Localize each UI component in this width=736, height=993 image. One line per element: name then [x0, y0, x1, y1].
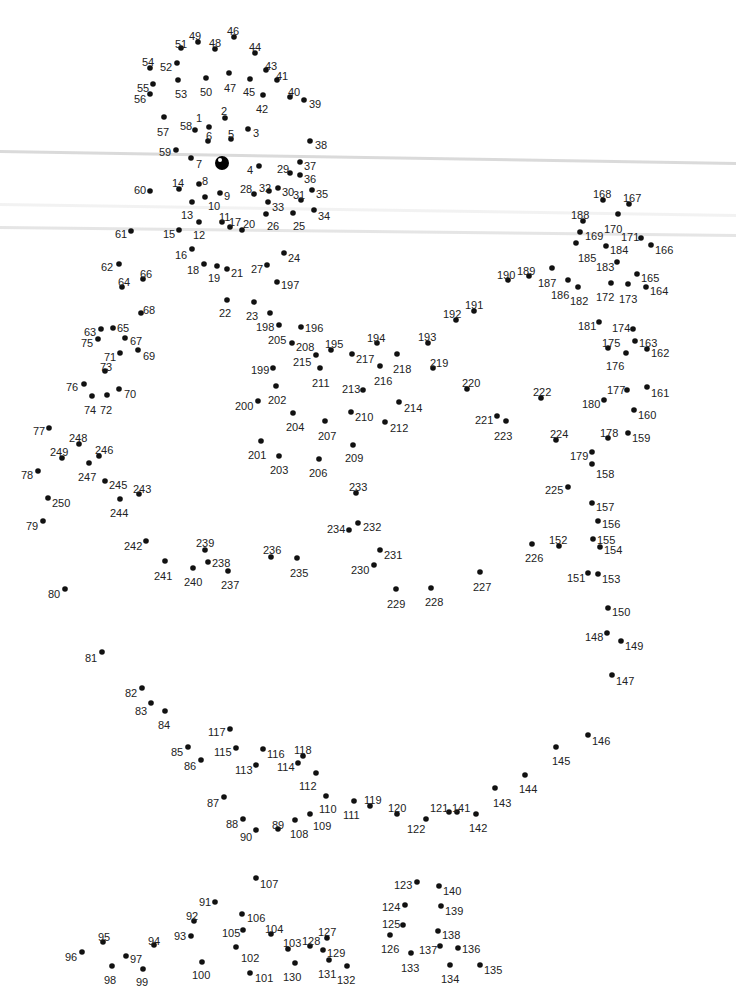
dot-label: 243 [133, 483, 151, 495]
dot-label: 26 [267, 220, 279, 232]
dot-53 [175, 77, 181, 83]
dot-label: 144 [519, 783, 537, 795]
dot-label: 179 [570, 450, 588, 462]
dot-label: 16 [175, 249, 187, 261]
dot-label: 133 [401, 962, 419, 974]
dot-83 [148, 700, 154, 706]
dot-86 [198, 757, 204, 763]
dot-label: 6 [206, 130, 212, 142]
dot-label: 171 [621, 231, 639, 243]
dot-label: 117 [208, 726, 226, 738]
dot-149 [618, 638, 624, 644]
dot-52 [174, 60, 180, 66]
dot-211 [317, 365, 323, 371]
dot-label: 199 [251, 364, 269, 376]
dot-label: 49 [189, 30, 201, 42]
dot-label: 90 [240, 831, 252, 843]
dot-147 [609, 672, 615, 678]
dot-label: 141 [452, 802, 470, 814]
dot-label: 29 [277, 163, 289, 175]
dot-240 [190, 565, 196, 571]
dot-label: 81 [85, 652, 97, 664]
dot-label: 110 [319, 803, 337, 815]
dot-116 [260, 746, 266, 752]
dot-label: 32 [259, 182, 271, 194]
dot-196 [298, 324, 304, 330]
dot-153 [595, 571, 601, 577]
dot-label: 220 [462, 377, 480, 389]
dot-label: 137 [419, 944, 437, 956]
dot-245 [102, 478, 108, 484]
dot-label: 93 [174, 930, 186, 942]
dot-26 [263, 211, 269, 217]
dot-label: 83 [135, 705, 147, 717]
dot-label: 38 [315, 139, 327, 151]
dot-146 [585, 732, 591, 738]
dot-12 [196, 219, 202, 225]
dot-199 [270, 365, 276, 371]
dot-label: 159 [632, 432, 650, 444]
dot-91 [212, 899, 218, 905]
dot-210 [348, 409, 354, 415]
dot-label: 107 [260, 878, 278, 890]
dot-166 [648, 242, 654, 248]
dot-59 [173, 147, 179, 153]
dot-label: 25 [293, 220, 305, 232]
dot-72 [104, 392, 110, 398]
dot-label: 250 [52, 497, 70, 509]
dot-1 [206, 124, 212, 130]
dot-139 [438, 903, 444, 909]
dot-label: 142 [469, 822, 487, 834]
dot-label: 228 [425, 596, 443, 608]
dot-label: 226 [525, 552, 543, 564]
dot-label: 223 [494, 430, 512, 442]
dot-label: 185 [578, 252, 596, 264]
dot-148 [604, 630, 610, 636]
dot-label: 172 [596, 291, 614, 303]
dot-label: 198 [256, 321, 274, 333]
dot-label: 77 [33, 425, 45, 437]
dot-150 [605, 605, 611, 611]
dot-label: 216 [374, 375, 392, 387]
dot-label: 204 [286, 421, 304, 433]
dot-129 [320, 947, 326, 953]
dot-144 [522, 772, 528, 778]
dot-label: 206 [309, 467, 327, 479]
eye-marker [215, 156, 229, 170]
dot-label: 187 [538, 277, 556, 289]
dot-230 [371, 562, 377, 568]
dot-label: 78 [21, 469, 33, 481]
dot-7 [188, 155, 194, 161]
dot-184 [603, 243, 609, 249]
dot-label: 7 [196, 158, 202, 170]
dot-132 [344, 963, 350, 969]
dot-218 [394, 351, 400, 357]
dot-label: 209 [345, 452, 363, 464]
dot-label: 24 [288, 252, 300, 264]
dot-label: 106 [247, 912, 265, 924]
dot-145 [553, 744, 559, 750]
dot-76 [81, 381, 87, 387]
dot-label: 109 [313, 820, 331, 832]
dot-label: 129 [327, 947, 345, 959]
dot-143 [492, 785, 498, 791]
dot-label: 31 [293, 189, 305, 201]
dot-label: 54 [142, 56, 154, 68]
dot-204 [290, 410, 296, 416]
dot-186 [565, 277, 571, 283]
dot-label: 160 [638, 409, 656, 421]
dot-label: 104 [265, 923, 283, 935]
dot-label: 68 [143, 304, 155, 316]
dot-101 [247, 970, 253, 976]
dot-label: 186 [551, 289, 569, 301]
dot-label: 13 [181, 209, 193, 221]
dot-label: 111 [343, 809, 360, 821]
dot-label: 14 [172, 177, 184, 189]
dot-label: 143 [493, 797, 511, 809]
dot-33 [265, 199, 271, 205]
dot-label: 64 [118, 276, 130, 288]
dot-label: 94 [148, 935, 160, 947]
dot-label: 123 [394, 879, 412, 891]
dot-205 [276, 322, 282, 328]
dot-label: 197 [281, 279, 299, 291]
